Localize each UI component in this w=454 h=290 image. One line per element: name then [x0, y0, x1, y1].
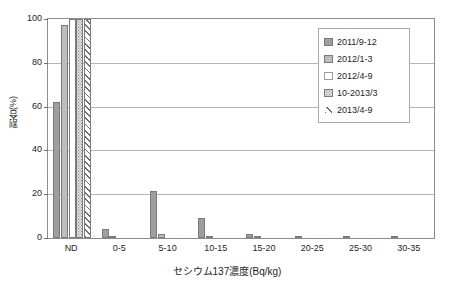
x-axis-tick-labels: ND0-55-1010-1515-2020-2525-3030-35: [47, 243, 435, 257]
bar: [109, 236, 116, 238]
bar: [102, 229, 109, 238]
y-tick-label: 20: [16, 189, 42, 198]
legend-item: 10-2013/3: [324, 84, 404, 101]
legend-swatch-icon: [324, 89, 333, 97]
y-tick-label: 40: [16, 145, 42, 154]
bar: [61, 25, 68, 238]
legend-swatch-icon: [324, 106, 333, 114]
bar: [76, 19, 83, 238]
bar: [69, 19, 76, 238]
bar: [53, 102, 60, 238]
x-tick-label: 15-20: [253, 243, 276, 253]
bar-group: [96, 19, 144, 238]
bar-group: [48, 19, 96, 238]
bar: [295, 236, 302, 238]
x-tick-label: 10-15: [204, 243, 227, 253]
bar-chart-figure: 割合(%) 100806040200 ND0-55-1010-1515-2020…: [0, 0, 454, 290]
y-axis-tick-labels: 100806040200: [8, 0, 42, 290]
legend-label: 2011/9-12: [337, 37, 377, 47]
bar-group: [193, 19, 241, 238]
bar: [246, 234, 253, 238]
y-tick-mark: [44, 238, 48, 239]
legend-swatch-icon: [324, 72, 333, 80]
x-tick-label: ND: [65, 243, 78, 253]
x-tick-label: 5-10: [159, 243, 177, 253]
x-tick-label: 30-35: [397, 243, 420, 253]
bar: [206, 236, 213, 238]
bar: [158, 234, 165, 238]
bar: [343, 236, 350, 238]
legend-swatch-icon: [324, 55, 333, 63]
legend-item: 2013/4-9: [324, 101, 404, 118]
legend-label: 2012/1-3: [337, 54, 373, 64]
x-tick-label: 20-25: [301, 243, 324, 253]
bar-group: [241, 19, 289, 238]
bar: [254, 236, 261, 238]
legend-label: 10-2013/3: [337, 88, 378, 98]
y-tick-label: 60: [16, 102, 42, 111]
legend-item: 2011/9-12: [324, 33, 404, 50]
y-tick-label: 80: [16, 58, 42, 67]
x-tick-label: 0-5: [113, 243, 126, 253]
bar: [150, 191, 157, 238]
legend-item: 2012/4-9: [324, 67, 404, 84]
bar-group: [145, 19, 193, 238]
x-tick-label: 25-30: [349, 243, 372, 253]
legend-label: 2012/4-9: [337, 71, 373, 81]
legend-swatch-icon: [324, 38, 333, 46]
x-axis-title: セシウム137濃度(Bq/kg): [0, 263, 454, 278]
y-tick-label: 0: [16, 233, 42, 242]
legend-label: 2013/4-9: [337, 105, 373, 115]
legend-item: 2012/1-3: [324, 50, 404, 67]
bar: [198, 218, 205, 238]
bar: [391, 236, 398, 238]
y-tick-label: 100: [16, 14, 42, 23]
chart-legend: 2011/9-122012/1-32012/4-910-2013/32013/4…: [318, 28, 410, 123]
bar: [84, 19, 91, 238]
